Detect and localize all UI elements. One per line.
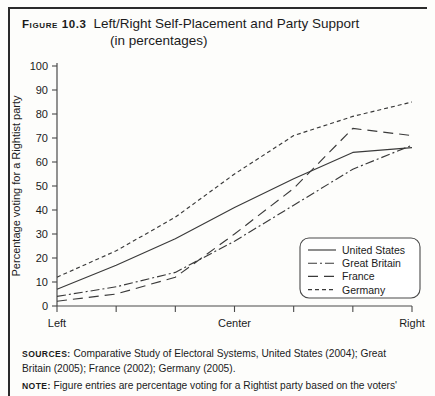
y-tick-label: 40 [36,204,48,216]
y-tick-label: 0 [42,300,48,312]
legend-label-great-britain: Great Britain [342,257,401,269]
y-tick-label: 20 [36,252,48,264]
sources-label: Sources: [22,349,71,359]
y-tick-label: 100 [30,60,48,72]
y-axis-title: Percentage voting for a Rightist party [10,95,22,276]
legend-label-france: France [342,270,375,282]
note-label: Note: [22,381,51,391]
y-tick-label: 90 [36,84,48,96]
y-tick-label: 10 [36,276,48,288]
figure-page: Figure 10.3 Left/Right Self-Placement an… [0,0,435,396]
figure-note: Note: Figure entries are percentage voti… [22,379,422,394]
y-tick-label: 60 [36,156,48,168]
line-chart: 0102030405060708090100LeftCenterRightPer… [0,0,435,340]
sources-text: Comparative Study of Electoral Systems, … [22,348,386,374]
y-tick-label: 30 [36,228,48,240]
x-tick-label: Right [399,317,425,329]
sources-note: Sources: Comparative Study of Electoral … [22,347,417,375]
y-tick-label: 50 [36,180,48,192]
y-tick-label: 70 [36,132,48,144]
legend-label-germany: Germany [342,284,386,296]
chart-plot-area: 0102030405060708090100LeftCenterRightPer… [0,0,435,340]
x-tick-label: Center [218,317,251,329]
note-text: Figure entries are percentage voting for… [54,380,397,391]
y-tick-label: 80 [36,108,48,120]
legend-label-united-states: United States [342,244,405,256]
x-tick-label: Left [48,317,66,329]
